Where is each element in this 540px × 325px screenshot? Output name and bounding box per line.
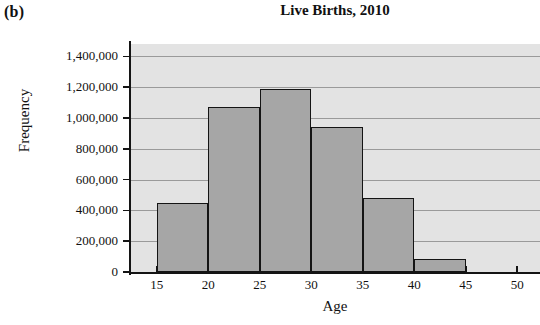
x-tick-label: 50 xyxy=(497,277,537,293)
gridline xyxy=(131,87,540,88)
x-tick-mark xyxy=(207,266,209,274)
bar xyxy=(363,198,415,272)
y-tick-mark xyxy=(123,56,130,58)
y-tick-label: 400,000 xyxy=(36,203,118,216)
y-tick-label: 800,000 xyxy=(36,142,118,155)
bar xyxy=(260,89,312,272)
y-tick-mark xyxy=(123,210,130,212)
x-tick-mark xyxy=(310,266,312,274)
y-tick-mark xyxy=(123,148,130,150)
x-tick-label: 15 xyxy=(137,277,177,293)
y-tick-mark xyxy=(123,117,130,119)
bar xyxy=(311,127,363,272)
x-axis-line xyxy=(129,272,540,274)
bar xyxy=(208,107,260,272)
bar xyxy=(157,203,209,272)
y-axis-title: Frequency xyxy=(16,71,33,171)
x-tick-label: 45 xyxy=(446,277,486,293)
y-tick-label: 600,000 xyxy=(36,173,118,186)
plot-area xyxy=(131,44,540,272)
y-tick-label: 1,400,000 xyxy=(36,49,118,62)
x-tick-mark xyxy=(516,266,518,274)
bar xyxy=(414,259,466,272)
y-tick-mark xyxy=(123,240,130,242)
chart-title: Live Births, 2010 xyxy=(130,2,540,19)
x-tick-mark xyxy=(362,266,364,274)
x-axis-title: Age xyxy=(130,298,540,315)
y-tick-label: 1,000,000 xyxy=(36,111,118,124)
x-tick-label: 30 xyxy=(291,277,331,293)
y-tick-label: 200,000 xyxy=(36,234,118,247)
x-tick-mark xyxy=(413,266,415,274)
x-tick-label: 20 xyxy=(188,277,228,293)
panel-label: (b) xyxy=(4,3,24,21)
x-tick-label: 25 xyxy=(240,277,280,293)
x-tick-mark xyxy=(465,266,467,274)
y-tick-mark xyxy=(123,86,130,88)
x-tick-label: 35 xyxy=(343,277,383,293)
y-tick-label: 1,200,000 xyxy=(36,80,118,93)
x-tick-mark xyxy=(259,266,261,274)
y-tick-mark xyxy=(123,179,130,181)
x-tick-label: 40 xyxy=(394,277,434,293)
x-tick-mark xyxy=(156,266,158,274)
y-tick-mark xyxy=(123,271,130,273)
y-tick-label: 0 xyxy=(36,265,118,278)
gridline xyxy=(131,56,540,57)
gridline xyxy=(131,118,540,119)
